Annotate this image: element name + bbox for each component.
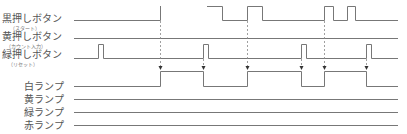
black-button-signal-cont xyxy=(207,7,398,21)
arrowhead-icon xyxy=(323,66,327,70)
green-button-signal xyxy=(74,45,398,59)
timing-diagram xyxy=(0,0,407,134)
arrowhead-icon xyxy=(246,66,250,70)
trigger-dashed-lines xyxy=(161,21,367,66)
arrowhead-icon xyxy=(365,66,369,70)
white-lamp-signal xyxy=(74,72,398,87)
arrowhead-icon xyxy=(159,66,163,70)
black-button-signal xyxy=(74,6,161,21)
trigger-arrowheads xyxy=(159,66,369,70)
arrowhead-icon xyxy=(300,66,304,70)
arrowhead-icon xyxy=(202,66,206,70)
